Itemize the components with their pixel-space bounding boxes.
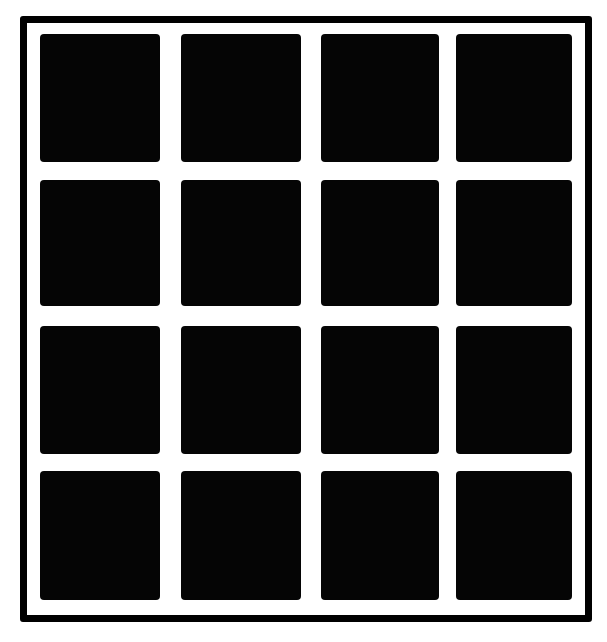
- grid-square: [456, 34, 572, 162]
- grid-square: [321, 180, 439, 306]
- grid-square: [40, 180, 160, 306]
- grid-square: [321, 326, 439, 454]
- grid-square: [456, 180, 572, 306]
- grid-square: [181, 180, 301, 306]
- grid-square: [181, 34, 301, 162]
- grid-square: [40, 471, 160, 600]
- grid-square: [456, 471, 572, 600]
- grid-square: [40, 34, 160, 162]
- grid-square: [456, 326, 572, 454]
- grid-square: [40, 326, 160, 454]
- grid-square: [321, 34, 439, 162]
- grid-square: [321, 471, 439, 600]
- grid-square: [181, 326, 301, 454]
- grid-square: [181, 471, 301, 600]
